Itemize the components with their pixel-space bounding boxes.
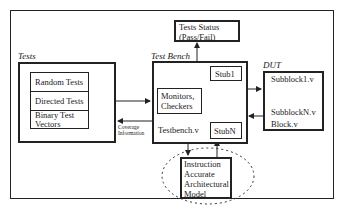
dut-box: Subblock1.v SubblockN.v Block.v — [263, 71, 324, 131]
testbench-file-label: Testbench.v — [158, 125, 199, 135]
directed-tests-label: Directed Tests — [35, 96, 84, 106]
tests-status-line2: (Pass/Fail) — [179, 32, 215, 42]
model-box: Instruction Accurate Architectural Model — [180, 157, 232, 199]
subblockn-label: SubblockN.v — [271, 107, 316, 117]
stubn-box: StubN — [210, 122, 242, 139]
stubn-label: StubN — [214, 126, 236, 136]
dut-label: DUT — [263, 60, 281, 70]
model-line1: Instruction — [184, 159, 221, 169]
monitors-checkers-box: Monitors, Checkers — [157, 88, 202, 114]
stub1-box: Stub1 — [210, 66, 242, 81]
coverage-line2: Information — [118, 130, 144, 136]
test-bench-label: Test Bench — [151, 51, 190, 61]
model-line2: Accurate — [184, 169, 215, 179]
stub1-label: Stub1 — [215, 69, 235, 79]
tests-list: Random Tests Directed Tests Binary Test … — [30, 72, 89, 129]
model-line3: Architectural — [184, 179, 229, 189]
tests-label: Tests — [18, 51, 36, 61]
block-label: Block.v — [271, 119, 298, 129]
binary-test-vectors-item: Binary Test Vectors — [31, 111, 88, 129]
vectors-label: Vectors — [35, 119, 61, 129]
checkers-label: Checkers — [161, 101, 193, 111]
random-tests-label: Random Tests — [35, 77, 83, 87]
model-line4: Model — [184, 189, 206, 199]
tests-status-box: Tests Status (Pass/Fail) — [174, 20, 240, 42]
subblock1-label: Subblock1.v — [271, 74, 314, 84]
random-tests-item: Random Tests — [31, 73, 88, 92]
tests-status-line1: Tests Status — [179, 22, 219, 32]
directed-tests-item: Directed Tests — [31, 92, 88, 111]
monitors-label: Monitors, — [161, 91, 194, 101]
